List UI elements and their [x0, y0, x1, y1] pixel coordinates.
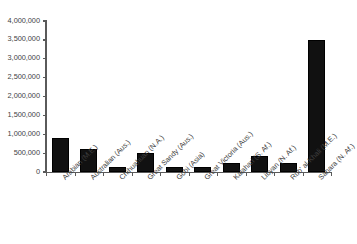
- y-axis-tick-label: 2,500,000: [8, 72, 40, 81]
- y-axis-tick-label: 3,500,000: [8, 34, 40, 43]
- y-axis-tick-label: 2,000,000: [8, 91, 40, 100]
- y-axis-tick-label: 1,000,000: [8, 129, 40, 138]
- y-axis-tick-label: 4,000,000: [8, 16, 40, 25]
- bar: [52, 138, 69, 172]
- y-axis-tick-label: 3,000,000: [8, 53, 40, 62]
- y-axis-tick-label: 0: [36, 167, 40, 176]
- y-axis-tick-label: 1,500,000: [8, 110, 40, 119]
- x-axis-tick-mark: [46, 172, 47, 176]
- y-axis-tick-label: 500,000: [14, 148, 40, 157]
